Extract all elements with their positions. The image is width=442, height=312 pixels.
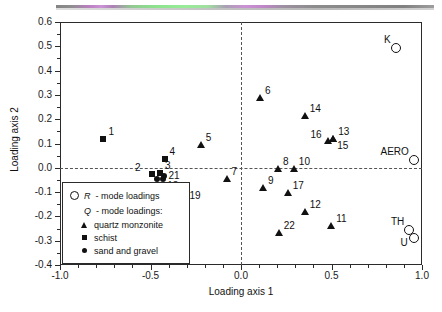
- y-tick-label: 0.2: [16, 114, 52, 124]
- data-point-marker[interactable]: [197, 141, 205, 148]
- data-point-label: 2: [135, 163, 141, 173]
- data-point-label: 9: [268, 176, 274, 186]
- x-tick-label: -1.0: [40, 270, 80, 281]
- legend-item-schist: schist: [69, 231, 183, 244]
- data-point-label: 21: [169, 171, 180, 181]
- data-point-marker[interactable]: [301, 112, 309, 119]
- scatter-plot-figure: -0.4-0.3-0.2-0.10.00.10.20.30.40.50.6 -1…: [0, 0, 442, 312]
- data-point-marker[interactable]: [223, 175, 231, 182]
- x-tick-minor: [350, 265, 351, 268]
- x-tick-minor: [132, 265, 133, 268]
- data-point-label: 5: [206, 133, 212, 143]
- y-tick-label: 0.1: [16, 139, 52, 149]
- y-tick-minor: [57, 156, 60, 157]
- chart-legend: R - mode loadings Q - mode loadings: qua…: [62, 182, 190, 264]
- y-tick-minor: [57, 95, 60, 96]
- y-tick-minor: [57, 229, 60, 230]
- data-point-label: 19: [190, 191, 201, 201]
- y-tick-minor: [57, 131, 60, 132]
- legend-q-symbol: Q: [84, 206, 91, 216]
- x-tick-label: 1.0: [402, 270, 442, 281]
- data-point-label: 16: [311, 130, 322, 140]
- data-point-marker[interactable]: [391, 43, 401, 53]
- x-tick-label: -0.5: [131, 270, 171, 281]
- legend-q-mode-row: Q - mode loadings:: [69, 203, 183, 218]
- y-tick-label: 0.4: [16, 66, 52, 76]
- y-tick-label: 0.3: [16, 90, 52, 100]
- legend-item-sand-and-gravel: sand and gravel: [69, 244, 183, 257]
- x-tick-minor: [169, 265, 170, 268]
- x-tick-minor: [295, 265, 296, 268]
- y-tick-label: 0.5: [16, 41, 52, 51]
- y-tick-minor: [57, 83, 60, 84]
- data-point-label: TH: [391, 217, 404, 227]
- data-point-label: 11: [336, 214, 346, 224]
- zero-line-horizontal: [60, 168, 422, 169]
- legend-item-label: sand and gravel: [94, 246, 158, 256]
- triangle-icon: [79, 222, 89, 228]
- data-point-marker[interactable]: [290, 165, 298, 172]
- x-tick-minor: [114, 265, 115, 268]
- legend-q-text: - mode loadings:: [96, 206, 163, 216]
- y-tick-minor: [57, 107, 60, 108]
- data-point-label: K: [384, 35, 391, 45]
- y-tick-minor: [57, 71, 60, 72]
- x-tick-minor: [313, 265, 314, 268]
- data-point-marker[interactable]: [275, 229, 283, 236]
- legend-r-mode-row: R - mode loadings: [69, 188, 183, 203]
- data-point-label: 12: [310, 200, 321, 210]
- y-tick-label: -0.1: [16, 187, 52, 197]
- data-point-label: AERO: [381, 147, 409, 157]
- data-point-label: 8: [283, 157, 289, 167]
- y-tick-minor: [57, 34, 60, 35]
- data-point-marker[interactable]: [162, 156, 168, 162]
- y-tick-minor: [57, 144, 60, 145]
- x-tick-minor: [78, 265, 79, 268]
- legend-r-symbol: R: [84, 191, 91, 201]
- scan-artifact-strip-shadow: [56, 8, 434, 10]
- data-point-marker[interactable]: [161, 173, 167, 179]
- data-point-marker[interactable]: [327, 222, 335, 229]
- data-point-marker[interactable]: [274, 165, 282, 172]
- data-point-label: 6: [265, 86, 271, 96]
- data-point-marker[interactable]: [409, 233, 419, 243]
- x-tick-minor: [404, 265, 405, 268]
- data-point-label: 10: [299, 157, 310, 167]
- y-tick: [55, 22, 60, 23]
- y-tick-label: -0.3: [16, 236, 52, 246]
- y-tick-minor: [57, 58, 60, 59]
- data-point-label: 1: [108, 127, 114, 137]
- x-tick-minor: [187, 265, 188, 268]
- data-point-marker[interactable]: [284, 189, 292, 196]
- x-tick-minor: [277, 265, 278, 268]
- data-point-label: 15: [337, 141, 348, 151]
- data-point-marker[interactable]: [324, 137, 332, 144]
- data-point-label: 4: [170, 147, 176, 157]
- data-point-marker[interactable]: [100, 136, 106, 142]
- data-point-marker[interactable]: [259, 184, 267, 191]
- data-point-marker[interactable]: [409, 155, 419, 165]
- legend-r-text: - mode loadings: [96, 191, 160, 201]
- legend-item-quartz-monzonite: quartz monzonite: [69, 218, 183, 231]
- data-point-label: 17: [293, 181, 304, 191]
- x-tick-minor: [205, 265, 206, 268]
- y-tick: [55, 168, 60, 169]
- y-tick-label: -0.4: [16, 260, 52, 270]
- y-tick-label: 0.0: [16, 163, 52, 173]
- legend-item-label: schist: [94, 233, 117, 243]
- data-point-label: 14: [310, 104, 321, 114]
- data-point-marker[interactable]: [301, 208, 309, 215]
- y-tick: [55, 192, 60, 193]
- data-point-label: 13: [338, 127, 349, 137]
- legend-item-label: quartz monzonite: [94, 220, 163, 230]
- y-tick-minor: [57, 180, 60, 181]
- data-point-label: U: [401, 238, 408, 248]
- data-point-marker[interactable]: [256, 94, 264, 101]
- x-tick-minor: [96, 265, 97, 268]
- x-tick-minor: [223, 265, 224, 268]
- y-tick-minor: [57, 253, 60, 254]
- x-tick-label: 0.0: [221, 270, 261, 281]
- x-tick-label: 0.5: [312, 270, 352, 281]
- y-tick-label: 0.6: [16, 17, 52, 27]
- y-tick: [55, 241, 60, 242]
